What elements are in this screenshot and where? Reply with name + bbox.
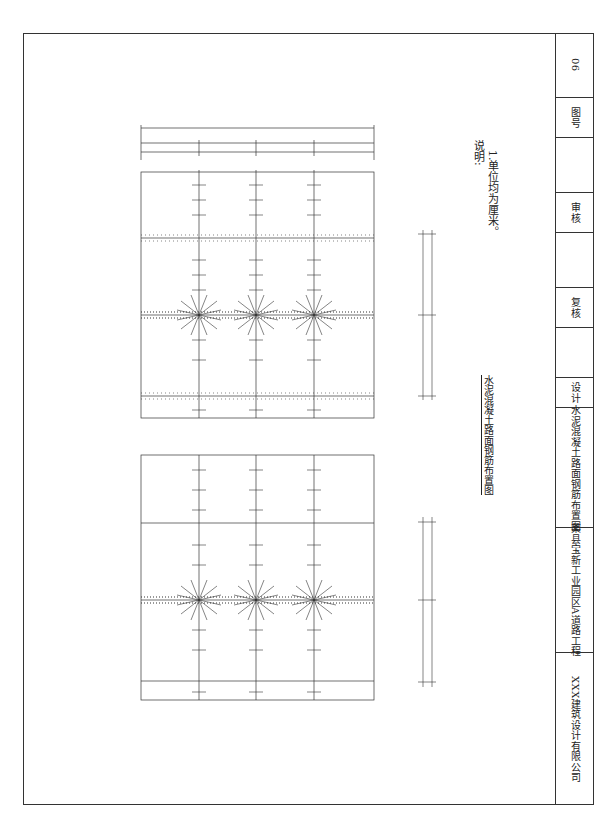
drawing-number: 06 xyxy=(570,58,581,72)
review-label: 复核 xyxy=(568,297,583,318)
company-cell: XXX建筑设计有限公司 xyxy=(556,653,594,805)
project-cell: 某县宝新工业园区A道路工程 xyxy=(556,528,594,653)
sheet-title-cell: 水泥混凝土路面钢筋布置图 xyxy=(556,408,594,528)
title-block: 06 图号 审核 复核 设计 水泥混凝土路面钢筋布置图 某县宝新工业园区A道路工… xyxy=(555,33,594,805)
drawing-number-label-cell: 图号 xyxy=(556,98,594,138)
notes-item-1: 1.单位均为厘米。 xyxy=(484,150,500,238)
approve-signature-cell xyxy=(556,138,594,193)
project-name: 某县宝新工业园区A道路工程 xyxy=(568,523,583,657)
review-signature-cell xyxy=(556,233,594,288)
drawing-number-label: 图号 xyxy=(568,107,583,128)
design-signature-cell xyxy=(556,328,594,378)
drawing-number-cell: 06 xyxy=(556,33,594,98)
design-label: 设计 xyxy=(568,382,583,403)
approve-label-cell: 审核 xyxy=(556,193,594,233)
review-label-cell: 复核 xyxy=(556,288,594,328)
company-name: XXX建筑设计有限公司 xyxy=(568,676,583,783)
reinforcement-layout-drawing xyxy=(0,0,607,836)
sheet-title: 水泥混凝土路面钢筋布置图 xyxy=(568,405,583,531)
approve-label: 审核 xyxy=(568,202,583,223)
drawing-title: 水泥混凝土路面钢筋布置图 xyxy=(480,375,495,495)
design-label-cell: 设计 xyxy=(556,378,594,408)
